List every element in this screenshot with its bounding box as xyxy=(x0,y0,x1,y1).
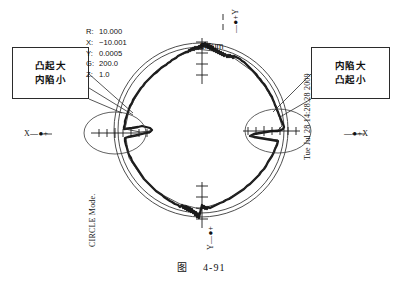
callout-right-line1: 内陷大 xyxy=(335,59,367,73)
axis-label-y-bottom: Y—●+ xyxy=(206,226,215,250)
param-value-z: 1.0 xyxy=(99,70,110,81)
axis-label-x-right: —●+X xyxy=(344,129,368,138)
figure-caption: 图 4-91 xyxy=(0,259,402,274)
param-key-y: Y: xyxy=(86,49,99,60)
callout-right: 内陷大 凸起小 xyxy=(311,47,390,99)
param-key-g: G: xyxy=(86,59,99,70)
roundness-figure: 凸起大 内陷小 内陷大 凸起小 R: 10.000 X: −10.001 Y: … xyxy=(0,0,402,284)
param-row-x: X: −10.001 xyxy=(86,38,127,49)
param-value-g: 200.0 xyxy=(99,59,118,70)
reference-circle-least-squares xyxy=(118,47,284,213)
param-row-g: G: 200.0 xyxy=(86,59,127,70)
axis-label-x-left: X—●+ xyxy=(24,129,48,138)
param-key-r: R: xyxy=(86,27,99,38)
param-value-y: 0.0005 xyxy=(99,49,122,60)
caption-number: 4-91 xyxy=(203,262,225,273)
param-row-y: Y: 0.0005 xyxy=(86,49,127,60)
param-row-z: Z: 1.0 xyxy=(86,70,127,81)
param-value-r: 10.000 xyxy=(99,27,122,38)
param-key-z: Z: xyxy=(86,70,99,81)
left-x-crosshair xyxy=(91,128,150,138)
axis-label-y-top: —●+Y xyxy=(231,9,240,33)
param-key-x: X: xyxy=(86,38,99,49)
param-row-r: R: 10.000 xyxy=(86,27,127,38)
scale-label: 5.0μm xyxy=(200,41,223,51)
bottom-y-crosshair xyxy=(196,182,208,228)
callout-left-line1: 凸起大 xyxy=(35,59,67,73)
measurement-mode-label: CIRCLE Mode. xyxy=(88,193,97,247)
param-value-x: −10.001 xyxy=(99,38,127,49)
callout-left-line2: 内陷小 xyxy=(35,73,67,87)
roundness-trace xyxy=(124,43,284,218)
caption-prefix: 图 xyxy=(177,262,188,273)
measurement-date-label: Tue Jul 28 14:28:28 2009 xyxy=(303,73,312,160)
reference-circle-outer xyxy=(114,43,288,217)
parameter-readout: R: 10.000 X: −10.001 Y: 0.0005 G: 200.0 … xyxy=(86,27,127,81)
callout-right-line2: 凸起小 xyxy=(335,73,367,87)
callout-left: 凸起大 内陷小 xyxy=(12,47,89,99)
